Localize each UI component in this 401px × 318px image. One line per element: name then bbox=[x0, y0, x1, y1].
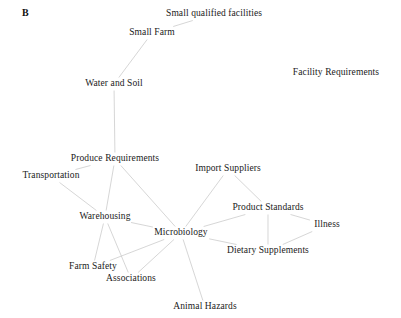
network-diagram-panel-b: B Small qualified facilitiesSmall FarmWa… bbox=[0, 0, 401, 318]
graph-node-produce_requirements: Produce Requirements bbox=[71, 154, 159, 164]
graph-node-dietary_supplements: Dietary Supplements bbox=[227, 246, 309, 256]
graph-node-warehousing: Warehousing bbox=[80, 212, 131, 222]
graph-node-illness: Illness bbox=[314, 220, 340, 230]
graph-node-small_qualified_facilities: Small qualified facilities bbox=[166, 9, 262, 19]
graph-node-farm_safety: Farm Safety bbox=[69, 262, 117, 272]
graph-node-water_and_soil: Water and Soil bbox=[85, 79, 143, 89]
graph-node-animal_hazards: Animal Hazards bbox=[173, 302, 236, 312]
graph-node-import_suppliers: Import Suppliers bbox=[195, 164, 261, 174]
graph-node-product_standards: Product Standards bbox=[232, 203, 303, 213]
graph-node-small_farm: Small Farm bbox=[129, 28, 175, 38]
graph-node-associations: Associations bbox=[106, 274, 156, 284]
graph-node-transportation: Transportation bbox=[23, 171, 80, 181]
graph-node-facility_requirements: Facility Requirements bbox=[293, 68, 379, 78]
graph-node-microbiology: Microbiology bbox=[154, 228, 207, 238]
node-layer: Small qualified facilitiesSmall FarmWate… bbox=[0, 0, 401, 318]
